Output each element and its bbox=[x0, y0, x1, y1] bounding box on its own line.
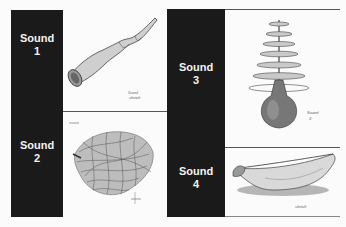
canoe-bowl-illustration: sketch bbox=[225, 148, 340, 216]
bottom-rule-right bbox=[225, 216, 340, 217]
svg-text:sketch: sketch bbox=[295, 204, 307, 209]
sound-3-label: Sound 3 bbox=[167, 61, 225, 87]
sound-3-number: 3 bbox=[167, 74, 225, 87]
sound-2-number: 2 bbox=[11, 152, 63, 165]
sound-3-title: Sound bbox=[167, 61, 225, 74]
svg-text:sketch: sketch bbox=[129, 95, 141, 100]
tangled-ball-illustration bbox=[63, 112, 167, 217]
stacked-disc-illustration: Sound 3 bbox=[225, 10, 340, 146]
sound-1-title: Sound bbox=[11, 32, 63, 45]
right-label-panel: Sound 3 Sound 4 bbox=[167, 9, 225, 217]
twisted-horn-illustration: Sound sketch bbox=[63, 10, 167, 110]
svg-text:Sound: Sound bbox=[307, 110, 319, 115]
sound-2-label: Sound 2 bbox=[11, 139, 63, 165]
sound-4-title: Sound bbox=[167, 165, 225, 178]
sound-1-number: 1 bbox=[11, 45, 63, 58]
svg-text:3: 3 bbox=[309, 116, 312, 121]
left-label-panel: Sound 1 Sound 2 bbox=[11, 10, 63, 217]
sound-4-label: Sound 4 bbox=[167, 165, 225, 191]
sound-2-title: Sound bbox=[11, 139, 63, 152]
sound-4-number: 4 bbox=[167, 178, 225, 191]
sound-1-label: Sound 1 bbox=[11, 32, 63, 58]
